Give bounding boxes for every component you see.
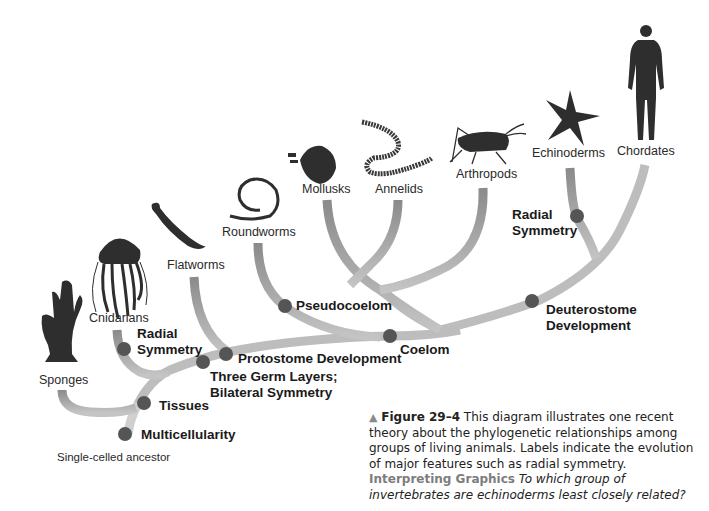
node-pseudocoelom (278, 299, 292, 313)
triangle-icon: ▲ (369, 411, 377, 424)
node-coelom (383, 329, 397, 343)
root-label: Single-celled ancestor (57, 451, 170, 463)
group-label-roundworms: Roundworms (222, 225, 296, 239)
trait-label-coelom: Coelom (400, 342, 450, 358)
starfish-icon (546, 90, 600, 146)
branch-sponges (62, 390, 136, 413)
trait-label-pseudocoelom: Pseudocoelom (296, 298, 392, 314)
group-label-cnidarians: Cnidarians (89, 311, 149, 325)
sponge-icon (42, 281, 83, 362)
human-icon (628, 25, 664, 140)
group-label-echinoderms: Echinoderms (532, 146, 605, 160)
jellyfish-icon (92, 238, 147, 318)
group-label-annelids: Annelids (375, 182, 423, 196)
node-multicellularity (118, 427, 132, 441)
flatworm-icon (152, 203, 207, 249)
roundworm-icon (230, 179, 278, 219)
node-deuterostome (525, 294, 539, 308)
group-label-chordates: Chordates (617, 144, 675, 158)
group-label-mollusks: Mollusks (302, 182, 351, 196)
trait-label-line: Symmetry (512, 223, 577, 239)
trait-label-line: Bilateral Symmetry (210, 385, 338, 401)
trait-label-tissues: Tissues (159, 398, 209, 414)
interpreting-label: Interpreting Graphics (369, 472, 515, 486)
figure-number: Figure 29–4 (381, 410, 460, 424)
trait-label-line: Development (546, 318, 637, 334)
node-tissues (137, 396, 151, 410)
trait-label-three-germ-layers: Three Germ Layers; Bilateral Symmetry (210, 369, 338, 401)
trait-label-line: Deuterostome (546, 302, 637, 318)
trait-label-line: Radial (512, 207, 577, 223)
trait-label-line: Three Germ Layers; (210, 369, 338, 385)
trait-label-multicellularity: Multicellularity (141, 427, 236, 443)
trait-label-deuterostome: Deuterostome Development (546, 302, 637, 334)
group-label-flatworms: Flatworms (167, 258, 225, 272)
trait-label-line: Symmetry (137, 342, 202, 358)
figure-caption: ▲ Figure 29–4 This diagram illustrates o… (369, 410, 704, 503)
branch-roundworms (258, 243, 380, 337)
clam-shell-icon (288, 146, 336, 184)
group-label-arthropods: Arthropods (456, 167, 517, 181)
node-radial-symmetry-cnidarians (117, 342, 131, 356)
node-protostome (219, 347, 233, 361)
trait-label-radial-symmetry-2: Radial Symmetry (512, 207, 577, 239)
trait-label-line: Radial (137, 326, 202, 342)
branch-annelids (350, 200, 398, 285)
grasshopper-icon (450, 124, 526, 164)
group-label-sponges: Sponges (39, 373, 88, 387)
segmented-worm-icon (362, 122, 432, 174)
trait-label-protostome: Protostome Development (238, 351, 402, 367)
trait-label-radial-symmetry-1: Radial Symmetry (137, 326, 202, 358)
